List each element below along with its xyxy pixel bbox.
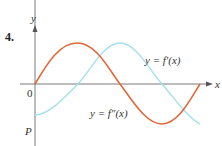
point-p-label: P: [24, 125, 32, 137]
y-axis-arrow-icon: [33, 25, 38, 32]
x-axis-label: x: [214, 78, 220, 90]
curve-label-f-prime: y = f′(x): [144, 54, 181, 67]
x-axis-arrow-icon: [206, 82, 213, 87]
graph: 4. y x 0 P y = f′(x) y = f″(x): [0, 0, 222, 146]
y-axis-label: y: [30, 12, 36, 24]
origin-label: 0: [27, 87, 33, 99]
problem-number: 4.: [5, 30, 14, 44]
curve-label-f-double-prime: y = f″(x): [89, 107, 128, 120]
